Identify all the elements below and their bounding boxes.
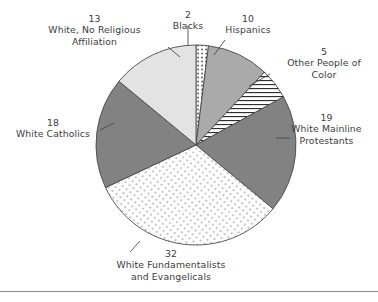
slice-value-blacks: 2: [162, 9, 214, 20]
pie-slices-group: [96, 45, 296, 245]
slice-value-other-people-of-color: 5: [272, 46, 376, 57]
slice-value-white-catholics: 18: [2, 117, 104, 128]
slice-label-white-mainline-protestants: 19 White Mainline Protestants: [277, 112, 376, 146]
slice-name-hispanics: Hispanics: [215, 24, 281, 35]
slice-value-white-no-religious-affiliation: 13: [22, 13, 167, 24]
slice-name-white-no-religious-affiliation-line1: White, No Religious: [22, 24, 167, 35]
slice-name-white-no-religious-affiliation-line2: Affiliation: [22, 36, 167, 47]
slice-name-white-mainline-protestants-line1: White Mainline: [277, 123, 376, 134]
slice-name-white-catholics: White Catholics: [2, 128, 104, 139]
slice-name-other-people-of-color-line1: Other People of: [272, 57, 376, 68]
slice-value-white-fundamentalists: 32: [78, 248, 264, 259]
slice-label-white-no-religious-affiliation: 13 White, No Religious Affiliation: [22, 13, 167, 47]
slice-name-white-fundamentalists-line1: White Fundamentalists: [78, 259, 264, 270]
slice-label-other-people-of-color: 5 Other People of Color: [272, 46, 376, 80]
bottom-divider: [0, 291, 378, 292]
slice-label-white-catholics: 18 White Catholics: [2, 117, 104, 140]
slice-name-other-people-of-color-line2: Color: [272, 69, 376, 80]
slice-name-blacks: Blacks: [162, 20, 214, 31]
slice-label-hispanics: 10 Hispanics: [215, 13, 281, 36]
slice-value-white-mainline-protestants: 19: [277, 112, 376, 123]
slice-value-hispanics: 10: [215, 13, 281, 24]
pie-chart-figure: 13 White, No Religious Affiliation 2 Bla…: [0, 0, 378, 302]
slice-name-white-mainline-protestants-line2: Protestants: [277, 135, 376, 146]
slice-label-white-fundamentalists: 32 White Fundamentalists and Evangelical…: [78, 248, 264, 282]
slice-label-blacks: 2 Blacks: [162, 9, 214, 32]
slice-name-white-fundamentalists-line2: and Evangelicals: [78, 271, 264, 282]
